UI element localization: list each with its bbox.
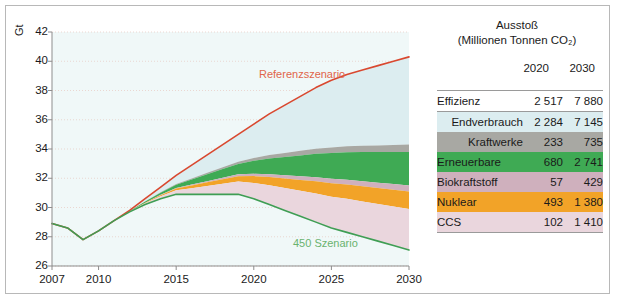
row-label: Biokraftstoff bbox=[437, 172, 523, 192]
row-value-2020: 493 bbox=[523, 192, 563, 212]
row-value-2030: 2 741 bbox=[563, 152, 603, 172]
column-header-2020: 2020 bbox=[509, 62, 549, 74]
x-tickmarks bbox=[52, 266, 409, 270]
reference-scenario-label: Referenzszenario bbox=[259, 68, 345, 80]
table-row: Nuklear4931 380 bbox=[437, 192, 603, 212]
x-tick-2007: 2007 bbox=[29, 273, 75, 285]
x-tick-2010: 2010 bbox=[76, 273, 122, 285]
row-value-2020: 233 bbox=[523, 132, 563, 152]
table-row: Endverbrauch2 2847 145 bbox=[437, 112, 603, 133]
y-tick-38: 38 bbox=[20, 84, 48, 96]
row-value-2030: 735 bbox=[563, 132, 603, 152]
x-tick-2020: 2020 bbox=[231, 273, 277, 285]
figure-frame: Gt 424038363432302826 200720102015202020… bbox=[5, 5, 610, 294]
x-tick-2025: 2025 bbox=[308, 273, 354, 285]
row-value-2030: 7 145 bbox=[563, 112, 603, 133]
row-value-2030: 1 410 bbox=[563, 212, 603, 233]
row-value-2030: 429 bbox=[563, 172, 603, 192]
table-subtitle: (Millionen Tonnen CO₂) bbox=[431, 33, 603, 48]
emissions-table-panel: Ausstoß (Millionen Tonnen CO₂) 2020 2030… bbox=[431, 6, 611, 295]
row-label: Endverbrauch bbox=[437, 112, 523, 133]
row-value-2020: 102 bbox=[523, 212, 563, 233]
table-row: Biokraftstoff57429 bbox=[437, 172, 603, 192]
row-label: Nuklear bbox=[437, 192, 523, 212]
row-label: Erneuerbare bbox=[437, 152, 523, 172]
emissions-chart: Gt 424038363432302826 200720102015202020… bbox=[6, 6, 431, 295]
y-tick-36: 36 bbox=[20, 113, 48, 125]
y-tick-42: 42 bbox=[20, 25, 48, 37]
plot-area bbox=[6, 6, 431, 295]
450-scenario-label: 450 Szenario bbox=[293, 237, 358, 249]
table-row: Effizienz2 5177 880 bbox=[437, 91, 603, 112]
row-value-2030: 7 880 bbox=[563, 91, 603, 112]
column-header-2030: 2030 bbox=[555, 62, 595, 74]
y-tick-40: 40 bbox=[20, 54, 48, 66]
row-value-2030: 1 380 bbox=[563, 192, 603, 212]
table-header: Ausstoß (Millionen Tonnen CO₂) bbox=[431, 18, 603, 48]
emissions-table: Effizienz2 5177 880Endverbrauch2 2847 14… bbox=[437, 90, 603, 233]
row-label: Kraftwerke bbox=[437, 132, 523, 152]
row-value-2020: 2 284 bbox=[523, 112, 563, 133]
table-title: Ausstoß bbox=[431, 18, 603, 33]
row-value-2020: 2 517 bbox=[523, 91, 563, 112]
row-label: Effizienz bbox=[437, 91, 523, 112]
y-tick-30: 30 bbox=[20, 201, 48, 213]
x-tick-2030: 2030 bbox=[386, 273, 432, 285]
x-tick-2015: 2015 bbox=[153, 273, 199, 285]
table-row: Erneuerbare6802 741 bbox=[437, 152, 603, 172]
y-tickmarks bbox=[48, 32, 52, 266]
row-label: CCS bbox=[437, 212, 523, 233]
row-value-2020: 57 bbox=[523, 172, 563, 192]
table-year-headers: 2020 2030 bbox=[431, 62, 603, 80]
y-tick-32: 32 bbox=[20, 171, 48, 183]
y-tick-34: 34 bbox=[20, 142, 48, 154]
row-value-2020: 680 bbox=[523, 152, 563, 172]
y-tick-28: 28 bbox=[20, 230, 48, 242]
y-tick-26: 26 bbox=[20, 259, 48, 271]
table-row: Kraftwerke233735 bbox=[437, 132, 603, 152]
table-row: CCS1021 410 bbox=[437, 212, 603, 233]
